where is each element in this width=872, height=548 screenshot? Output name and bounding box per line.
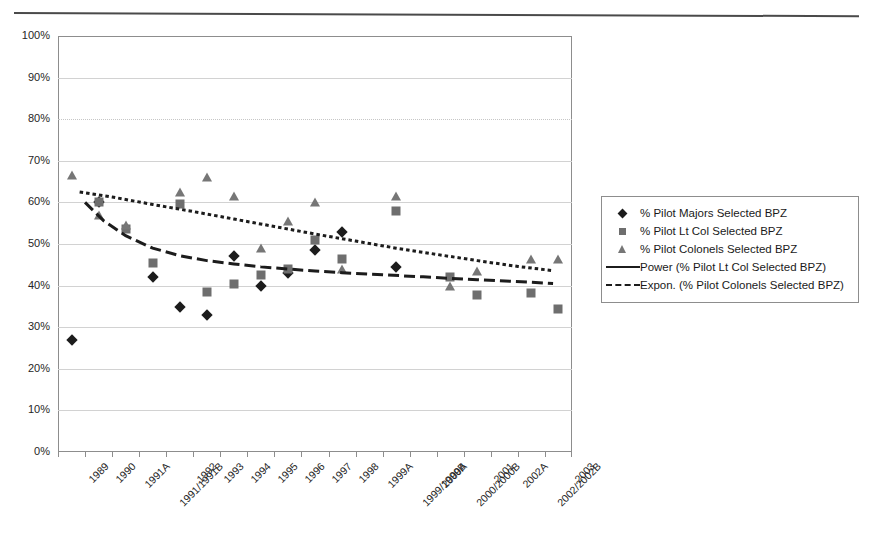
legend-square-icon: [606, 224, 640, 238]
legend-key-glyph: [606, 284, 640, 286]
data-point-triangle: [67, 171, 77, 180]
legend-item[interactable]: % Pilot Majors Selected BPZ: [606, 204, 852, 222]
chart-plot-area: [58, 36, 572, 452]
y-axis-tick-label: 80%: [0, 113, 50, 124]
y-axis-tick-label: 20%: [0, 363, 50, 374]
data-point-triangle: [445, 281, 455, 290]
y-axis-tick-label: 70%: [0, 155, 50, 166]
chart-legend: % Pilot Majors Selected BPZ% Pilot Lt Co…: [601, 196, 859, 303]
x-axis-tick-label: 1991A: [142, 460, 172, 490]
data-point-triangle: [256, 244, 266, 253]
gridline: [58, 161, 572, 162]
gridline: [58, 327, 572, 328]
data-point-square: [175, 200, 184, 209]
legend-item-label: % Pilot Lt Col Selected BPZ: [640, 225, 783, 238]
data-point-square: [283, 264, 292, 273]
data-point-square: [148, 258, 157, 267]
legend-line-dashed-icon: [606, 278, 640, 292]
legend-item[interactable]: Expon. (% Pilot Colonels Selected BPZ): [606, 276, 852, 294]
data-point-square: [554, 305, 563, 314]
legend-item[interactable]: Power (% Pilot Lt Col Selected BPZ): [606, 258, 852, 276]
data-point-triangle: [337, 264, 347, 273]
x-axis-tick-label: 2000A: [439, 460, 469, 490]
data-point-square: [94, 198, 103, 207]
legend-item[interactable]: % Pilot Lt Col Selected BPZ: [606, 222, 852, 240]
legend-line-solid-icon: [606, 260, 640, 274]
header-rule: [14, 12, 859, 17]
x-axis-tick-label: 1993: [221, 460, 246, 485]
legend-item-label: Expon. (% Pilot Colonels Selected BPZ): [640, 279, 844, 292]
data-point-triangle: [553, 254, 563, 263]
data-point-square: [338, 254, 347, 263]
data-point-square: [256, 271, 265, 280]
data-point-square: [527, 288, 536, 297]
legend-item[interactable]: % Pilot Colonels Selected BPZ: [606, 240, 852, 258]
data-point-triangle: [283, 217, 293, 226]
x-axis-tick-label: 1995: [275, 460, 300, 485]
x-axis-tick-label: 1994: [248, 460, 273, 485]
data-point-square: [473, 290, 482, 299]
data-point-triangle: [310, 198, 320, 207]
x-axis-labels: 198919901991A1991/1991B19921993199419951…: [0, 452, 640, 548]
x-axis-tick-label: 1997: [329, 460, 354, 485]
data-point-square: [392, 206, 401, 215]
data-point-triangle: [175, 188, 185, 197]
legend-item-label: % Pilot Colonels Selected BPZ: [640, 243, 797, 256]
y-axis-tick-label: 90%: [0, 72, 50, 83]
gridline: [58, 119, 572, 120]
data-point-triangle: [229, 192, 239, 201]
data-point-triangle: [202, 173, 212, 182]
data-point-square: [229, 279, 238, 288]
data-point-triangle: [472, 267, 482, 276]
legend-key-glyph: [606, 266, 640, 268]
y-axis-tick-label: 50%: [0, 238, 50, 249]
legend-key-glyph: [618, 209, 628, 219]
y-axis-tick-label: 60%: [0, 196, 50, 207]
gridline: [58, 369, 572, 370]
data-point-square: [202, 287, 211, 296]
data-point-triangle: [94, 210, 104, 219]
x-axis-tick-label: 1989: [85, 460, 110, 485]
gridline: [58, 410, 572, 411]
data-point-square: [311, 235, 320, 244]
legend-diamond-icon: [606, 206, 640, 220]
y-axis-tick-label: 40%: [0, 280, 50, 291]
legend-item-label: Power (% Pilot Lt Col Selected BPZ): [640, 261, 826, 274]
x-axis-tick-label: 1998: [356, 460, 381, 485]
legend-key-glyph: [619, 228, 626, 235]
data-point-triangle: [526, 254, 536, 263]
x-axis-tick-label: 1990: [112, 460, 137, 485]
gridline: [58, 78, 572, 79]
x-axis-tick-label: 1996: [302, 460, 327, 485]
y-axis-tick-label: 10%: [0, 404, 50, 415]
x-axis-tick-label: 1999A: [385, 460, 415, 490]
legend-triangle-icon: [606, 242, 640, 256]
y-axis-tick-label: 30%: [0, 321, 50, 332]
data-point-triangle: [391, 192, 401, 201]
gridline: [58, 286, 572, 287]
y-axis-tick-label: 100%: [0, 30, 50, 41]
data-point-triangle: [121, 221, 131, 230]
legend-item-label: % Pilot Majors Selected BPZ: [640, 207, 787, 220]
legend-key-glyph: [618, 245, 626, 253]
x-axis-tick-label: 2002A: [520, 460, 550, 490]
